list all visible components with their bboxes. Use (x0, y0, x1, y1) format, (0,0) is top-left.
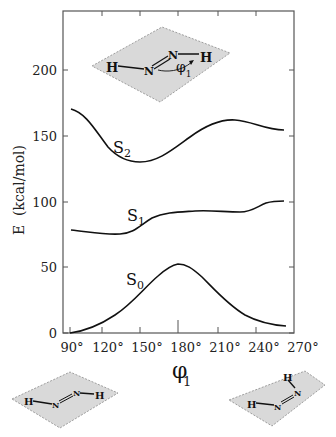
y-tick-0: 0 (49, 326, 57, 341)
x-tick-180: 180° (170, 340, 201, 355)
x-tick-270: 270° (287, 340, 318, 355)
atom-h1-right: H (247, 399, 256, 410)
atom-h2-top: H (200, 50, 212, 65)
atom-h1-top: H (106, 60, 118, 75)
atom-n1-top: N (144, 65, 154, 78)
y-tick-100: 100 (32, 195, 57, 210)
atom-n2-right: N (294, 388, 301, 398)
label-s2: S2 (113, 138, 131, 160)
y-tick-150: 150 (32, 129, 57, 144)
x-axis-title-sub: 1 (183, 374, 191, 389)
y-tick-200: 200 (32, 63, 57, 78)
x-tick-240: 240° (248, 340, 279, 355)
energy-chart: 0 50 100 150 200 90° 120° 150° 180° 210°… (0, 0, 336, 437)
molecule-inset-bottom-right: H N N H (229, 371, 325, 426)
atom-n1-right: N (274, 402, 281, 412)
atom-h2-left: H (95, 390, 104, 401)
y-tick-labels: 0 50 100 150 200 (32, 63, 57, 341)
label-s1: S1 (127, 206, 145, 228)
atom-h1-left: H (24, 396, 33, 407)
x-tick-150: 150° (131, 340, 162, 355)
x-axis-title: φ 1 (172, 358, 191, 389)
plane-bottom-right (229, 371, 325, 426)
x-tick-210: 210° (209, 340, 240, 355)
atom-n2-left: N (73, 388, 80, 398)
label-s0: S0 (126, 270, 144, 292)
atom-n1-left: N (52, 400, 59, 410)
curve-s2 (71, 109, 284, 162)
y-tick-50: 50 (40, 260, 57, 275)
x-tick-90: 90° (60, 340, 83, 355)
x-tick-labels: 90° 120° 150° 180° 210° 240° 270° (60, 340, 318, 355)
molecule-inset-bottom-left: H N N H (12, 372, 118, 428)
x-tick-120: 120° (92, 340, 123, 355)
molecule-inset-top: H N N H φ1 (92, 27, 230, 102)
y-axis-title: E (kcal/mol) (11, 145, 27, 235)
atom-h2-right: H (283, 372, 292, 383)
y-ticks (63, 70, 294, 333)
curve-s1 (71, 201, 284, 234)
